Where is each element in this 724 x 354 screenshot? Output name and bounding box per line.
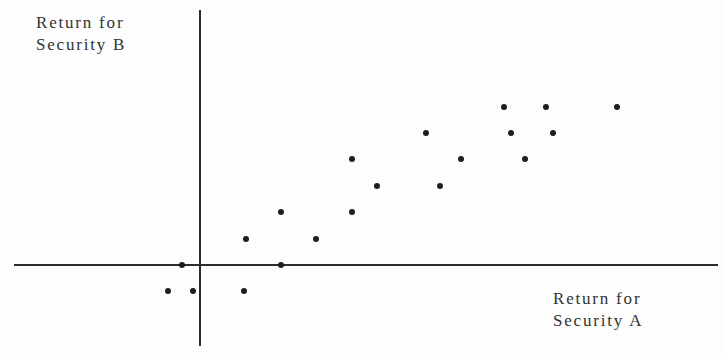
data-point (243, 236, 249, 242)
data-point (278, 262, 284, 268)
data-point (522, 156, 528, 162)
data-points (0, 0, 724, 354)
data-point (543, 104, 549, 110)
data-point (349, 156, 355, 162)
data-point (508, 130, 514, 136)
data-point (374, 183, 380, 189)
data-point (349, 209, 355, 215)
data-point (313, 236, 319, 242)
data-point (278, 209, 284, 215)
data-point (458, 156, 464, 162)
data-point (179, 262, 185, 268)
data-point (423, 130, 429, 136)
data-point (190, 288, 196, 294)
scatter-chart: Return for Security B Return for Securit… (0, 0, 724, 354)
data-point (241, 288, 247, 294)
data-point (550, 130, 556, 136)
data-point (501, 104, 507, 110)
data-point (437, 183, 443, 189)
data-point (165, 288, 171, 294)
data-point (614, 104, 620, 110)
